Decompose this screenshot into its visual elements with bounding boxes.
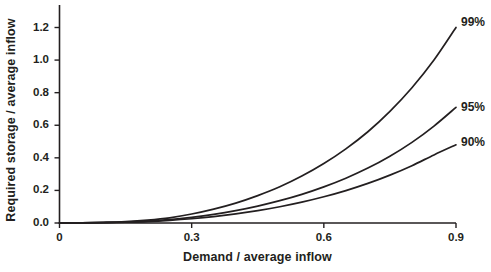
y-tick-label: 1.2 (15, 21, 49, 33)
x-tick-label: 0.3 (172, 231, 212, 243)
chart-series-lines (60, 28, 457, 224)
chart-figure: Required storage / average inflow Demand… (0, 0, 491, 272)
series-line-99pct (60, 28, 457, 224)
series-label-90: 90% (461, 135, 485, 149)
series-line-95pct (60, 107, 457, 223)
x-tick-label: 0.6 (304, 231, 344, 243)
y-tick-label: 0.6 (15, 118, 49, 130)
y-tick-label: 0.2 (15, 183, 49, 195)
series-label-99: 99% (461, 15, 485, 29)
y-tick-label: 0.0 (15, 216, 49, 228)
y-tick-label: 0.4 (15, 151, 49, 163)
x-tick-label: 0.9 (436, 231, 476, 243)
x-axis-title: Demand / average inflow (59, 250, 456, 264)
series-line-90pct (60, 145, 457, 223)
y-tick-label: 1.0 (15, 53, 49, 65)
x-tick-label: 0 (40, 231, 80, 243)
series-label-95: 95% (461, 100, 485, 114)
y-tick-label: 0.8 (15, 86, 49, 98)
